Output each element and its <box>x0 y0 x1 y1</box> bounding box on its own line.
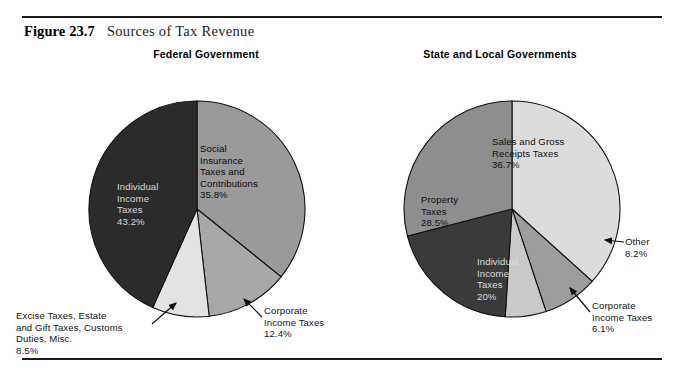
panel-title-federal: Federal Government <box>106 48 306 61</box>
label-federal-excise: Excise Taxes, Estate and Gift Taxes, Cus… <box>16 310 123 356</box>
figure-title: Sources of Tax Revenue <box>107 23 254 39</box>
label-federal-social-insurance: Social Insurance Taxes and Contributions… <box>200 143 258 201</box>
figure-caption: Figure 23.7Sources of Tax Revenue <box>24 22 254 40</box>
top-rule <box>22 16 662 18</box>
label-federal-individual-income-text: Individual Income Taxes 43.2% <box>117 181 159 227</box>
bottom-rule <box>22 358 662 360</box>
label-state-other: Other 8.2% <box>625 236 650 259</box>
label-federal-corporate: Corporate Income Taxes 12.4% <box>264 305 324 340</box>
label-state-property: Property Taxes 28.5% <box>421 194 458 229</box>
pie-chart-federal <box>81 100 313 318</box>
panel-title-state: State and Local Governments <box>410 48 590 61</box>
label-state-individual-income: Individual Income Taxes 20% <box>477 256 519 302</box>
label-state-individual-income-text: Individual Income Taxes 20% <box>477 256 519 302</box>
figure-number: Figure 23.7 <box>24 23 95 39</box>
pie-federal-svg <box>81 100 313 318</box>
label-state-sales-receipts: Sales and Gross Receipts Taxes 36.7% <box>492 136 564 171</box>
figure-page: Figure 23.7Sources of Tax Revenue Federa… <box>0 0 684 380</box>
label-state-corporate: Corporate Income Taxes 6.1% <box>592 300 652 335</box>
label-federal-individual-income: Individual Income Taxes 43.2% <box>117 181 159 227</box>
